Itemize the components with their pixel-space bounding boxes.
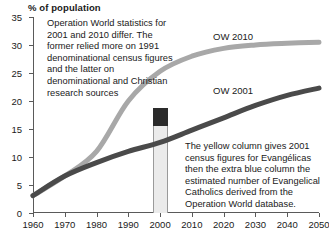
column-evangelical-catholics xyxy=(153,108,168,126)
x-tick xyxy=(128,213,129,217)
x-tick xyxy=(192,213,193,217)
x-tick xyxy=(33,213,34,217)
x-tick-label: 2010 xyxy=(181,219,202,230)
series-label-ow-2010: OW 2010 xyxy=(213,31,253,42)
x-tick-label: 1970 xyxy=(54,219,75,230)
y-tick-label: 10 xyxy=(11,152,22,163)
x-tick-label: 2040 xyxy=(277,219,298,230)
y-tick-label: 20 xyxy=(11,96,22,107)
x-tick-label: 2000 xyxy=(150,219,171,230)
x-tick-label: 1960 xyxy=(22,219,43,230)
chart-axis-title: % of population xyxy=(28,2,101,13)
chart-figure: % of population 05101520253035 196019701… xyxy=(0,0,329,241)
x-tick xyxy=(160,213,161,217)
y-tick-label: 25 xyxy=(11,68,22,79)
y-tick-label: 0 xyxy=(17,208,22,219)
x-tick xyxy=(255,213,256,217)
x-tick-label: 1990 xyxy=(118,219,139,230)
y-tick-label: 30 xyxy=(11,40,22,51)
x-tick xyxy=(97,213,98,217)
x-tick-label: 2050 xyxy=(308,219,329,230)
x-tick xyxy=(224,213,225,217)
x-tick xyxy=(287,213,288,217)
y-tick-label: 15 xyxy=(11,124,22,135)
x-tick xyxy=(65,213,66,217)
y-tick-label: 35 xyxy=(11,12,22,23)
annotation-bottom-right: The yellow column gives 2001 census figu… xyxy=(185,141,325,211)
annotation-top-left: Operation World statistics for 2001 and … xyxy=(47,18,179,99)
x-tick-label: 2020 xyxy=(213,219,234,230)
x-tick xyxy=(319,213,320,217)
x-tick-label: 2030 xyxy=(245,219,266,230)
series-label-ow-2001: OW 2001 xyxy=(213,85,253,96)
x-tick-label: 1980 xyxy=(86,219,107,230)
y-tick-label: 5 xyxy=(17,180,22,191)
